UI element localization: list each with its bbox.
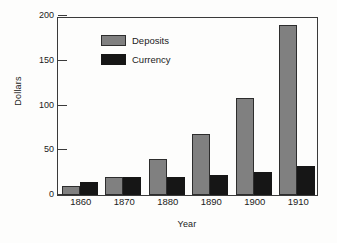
bar-deposits-1900 [236, 98, 254, 195]
bar-deposits-1870 [105, 177, 123, 195]
legend-swatch-currency [101, 54, 126, 65]
bar-chart-figure: Dollars 050100150200 1860187018801890190… [0, 0, 337, 243]
y-axis-title: Dollars [13, 51, 23, 131]
x-tick-label: 1860 [70, 196, 91, 207]
x-axis-title: Year [56, 219, 318, 229]
bar-currency-1910 [297, 166, 315, 195]
bar-currency-1890 [210, 175, 228, 195]
bar-deposits-1860 [62, 186, 80, 195]
y-tick-label: 200 [39, 10, 54, 20]
y-tick: 200 [58, 15, 67, 16]
bar-deposits-1890 [192, 134, 210, 195]
legend-item-currency: Currency [101, 52, 171, 67]
bar-group [189, 18, 233, 195]
legend: DepositsCurrency [101, 33, 171, 71]
x-tick-label: 1880 [157, 196, 178, 207]
legend-label-deposits: Deposits [132, 35, 169, 46]
bar-group [232, 18, 276, 195]
bar-deposits-1880 [149, 159, 167, 195]
bar-currency-1870 [123, 177, 141, 195]
bar-currency-1860 [80, 182, 98, 195]
x-tick-label: 1900 [244, 196, 265, 207]
x-tick-label: 1870 [114, 196, 135, 207]
bar-group [58, 18, 102, 195]
plot-area: 050100150200 186018701880189019001910 De… [57, 17, 318, 196]
bar-currency-1900 [254, 172, 272, 195]
y-tick-label: 0 [49, 189, 54, 199]
bar-group [276, 18, 320, 195]
legend-swatch-deposits [101, 35, 126, 46]
y-tick-label: 100 [39, 100, 54, 110]
x-tick-label: 1890 [201, 196, 222, 207]
legend-label-currency: Currency [132, 54, 171, 65]
legend-item-deposits: Deposits [101, 33, 171, 48]
y-tick-label: 50 [44, 144, 54, 154]
bar-deposits-1910 [279, 25, 297, 195]
x-tick-label: 1910 [288, 196, 309, 207]
bar-currency-1880 [167, 177, 185, 195]
y-tick-label: 150 [39, 55, 54, 65]
